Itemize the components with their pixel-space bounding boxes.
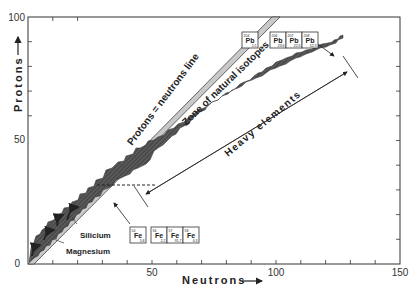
- silicium-label: Silicium: [80, 231, 111, 240]
- isotope-box-pb208: 208 Pb 52.3: [302, 32, 318, 48]
- y-tick-0: 0: [14, 258, 20, 269]
- svg-text:22.6: 22.6: [294, 44, 301, 48]
- zone-natural-isotopes-label: Zone of natural isotopes: [180, 39, 271, 128]
- magnesium-label: Magnesium: [66, 247, 110, 256]
- x-minor-ticks: [53, 17, 375, 264]
- y-tick-50: 50: [14, 134, 26, 145]
- isotope-box-fe57: 57 Fe 91.7: [167, 227, 183, 243]
- svg-text:5.8: 5.8: [140, 239, 145, 243]
- isotope-box-fe54: 54 Fe 5.8: [130, 227, 146, 243]
- x-tick-50: 50: [146, 267, 158, 278]
- svg-text:Fe: Fe: [134, 232, 142, 239]
- isotope-box-pb206: 206 Pb 23.6: [270, 32, 286, 48]
- x-axis-title: Neutrons: [182, 274, 246, 286]
- x-tick-100: 100: [268, 267, 285, 278]
- svg-text:Fe: Fe: [171, 232, 179, 239]
- svg-text:Pb: Pb: [306, 37, 315, 44]
- x-tick-150: 150: [392, 267, 409, 278]
- isotope-box-pb204: 204 Pb 1.5: [242, 32, 258, 48]
- svg-text:91.7: 91.7: [175, 239, 182, 243]
- nuclide-chart: 0 50 100 50 100 150 Neutrons Protons Sil…: [0, 0, 415, 295]
- svg-text:Pb: Pb: [290, 37, 299, 44]
- plot-frame: [28, 17, 400, 264]
- y-tick-100: 100: [8, 12, 25, 23]
- svg-text:Pb: Pb: [274, 37, 283, 44]
- svg-text:Pb: Pb: [246, 37, 255, 44]
- isotope-box-fe58: 58 Fe 0.3: [183, 227, 199, 243]
- svg-text:52.3: 52.3: [310, 44, 317, 48]
- svg-text:1.5: 1.5: [252, 44, 257, 48]
- isotope-box-pb207: 207 Pb 22.6: [286, 32, 302, 48]
- y-axis-title: Protons: [12, 56, 24, 112]
- isotope-box-fe56: 56 Fe 2.2: [151, 227, 167, 243]
- svg-text:0.3: 0.3: [193, 239, 198, 243]
- svg-text:Fe: Fe: [187, 232, 195, 239]
- magnesium-pointer: [56, 240, 64, 243]
- svg-text:2.2: 2.2: [161, 239, 166, 243]
- fe-pointer-arrow: [114, 203, 130, 224]
- svg-text:Fe: Fe: [155, 232, 163, 239]
- svg-text:23.6: 23.6: [278, 44, 285, 48]
